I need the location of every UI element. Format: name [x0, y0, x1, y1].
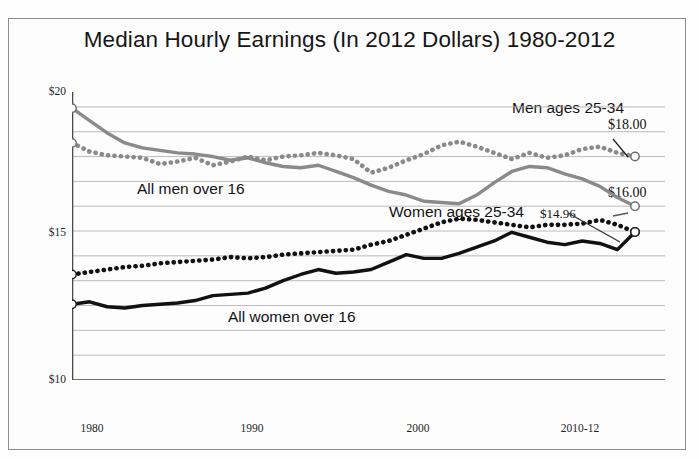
series-startpoint-marker — [72, 270, 76, 278]
series-line — [72, 219, 635, 275]
plot-svg — [72, 92, 665, 380]
x-axis-tick-1980: 1980 — [62, 422, 122, 434]
series-men-ages-25-34 — [72, 139, 639, 173]
chart-title: Median Hourly Earnings (In 2012 Dollars)… — [0, 27, 699, 53]
x-axis-tick-1990: 1990 — [222, 422, 282, 434]
leader-line-14-96 — [568, 213, 620, 242]
series-line — [72, 232, 635, 308]
y-axis-tick-10: $10 — [22, 373, 66, 385]
leader-line-16-00 — [613, 213, 628, 216]
series-endpoint-marker — [631, 202, 639, 210]
y-axis-tick-20: $20 — [22, 85, 66, 97]
x-axis-tick-2010-12: 2010-12 — [540, 422, 620, 434]
series-startpoint-marker — [72, 300, 76, 308]
series-startpoint-marker — [72, 104, 76, 112]
series-startpoint-marker — [72, 139, 76, 147]
plot-area — [72, 92, 665, 380]
y-axis-tick-15: $15 — [22, 226, 66, 238]
x-axis-tick-2000: 2000 — [388, 422, 448, 434]
series-women-ages-25-34 — [72, 219, 639, 279]
series-endpoint-marker — [631, 152, 639, 160]
series-endpoint-marker — [631, 228, 639, 236]
chart-figure: Median Hourly Earnings (In 2012 Dollars)… — [0, 0, 699, 459]
series-all-women-over-16 — [72, 228, 639, 309]
